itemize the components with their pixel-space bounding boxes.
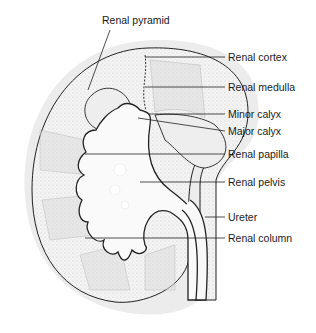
label-renal-pelvis: Renal pelvis bbox=[228, 176, 285, 188]
label-minor-calyx: Minor calyx bbox=[228, 108, 282, 120]
label-ureter: Ureter bbox=[228, 211, 258, 223]
label-major-calyx: Major calyx bbox=[228, 125, 282, 137]
kidney-diagram: Renal pyramid Renal cortex Renal medulla… bbox=[0, 0, 316, 333]
label-renal-cortex: Renal cortex bbox=[228, 51, 288, 63]
label-renal-column: Renal column bbox=[228, 232, 292, 244]
label-renal-medulla: Renal medulla bbox=[228, 81, 295, 93]
label-renal-pyramid: Renal pyramid bbox=[102, 14, 170, 26]
label-renal-papilla: Renal papilla bbox=[228, 148, 289, 160]
